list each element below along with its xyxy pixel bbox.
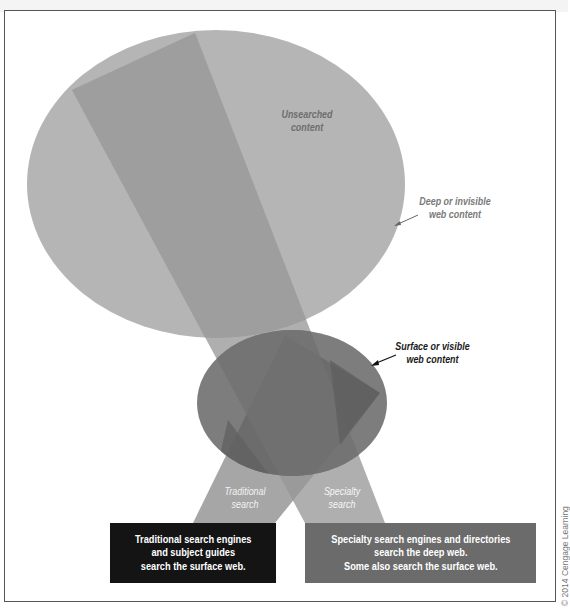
unsearched-content-label: Unsearched content [269,108,346,134]
label-line: search [215,498,275,511]
label-line: Traditional [215,485,275,498]
box-line: search the deep web. [331,546,510,560]
traditional-search-label: Traditional search [215,485,275,511]
label-line: Specialty [312,485,372,498]
surface-web-label: Surface or visible web content [384,340,482,366]
box-line: and subject guides [135,546,252,560]
box-line: search the surface web. [135,560,252,574]
label-line: Unsearched [269,108,346,121]
label-line: Deep or invisible [404,195,506,208]
specialty-search-label: Specialty search [312,485,372,511]
box-line: Some also search the surface web. [331,560,510,574]
box-line: Traditional search engines [135,533,252,547]
traditional-search-box: Traditional search engines and subject g… [110,523,276,583]
copyright-notice: © 2014 Cengage Learning [560,496,570,606]
label-line: Surface or visible [384,340,482,353]
label-line: web content [404,208,506,221]
label-line: web content [384,353,482,366]
label-line: search [312,498,372,511]
label-line: content [269,121,346,134]
specialty-search-box: Specialty search engines and directories… [305,523,536,583]
box-line: Specialty search engines and directories [331,533,510,547]
deep-web-label: Deep or invisible web content [404,195,506,221]
surface-web-arrowhead [371,360,379,366]
